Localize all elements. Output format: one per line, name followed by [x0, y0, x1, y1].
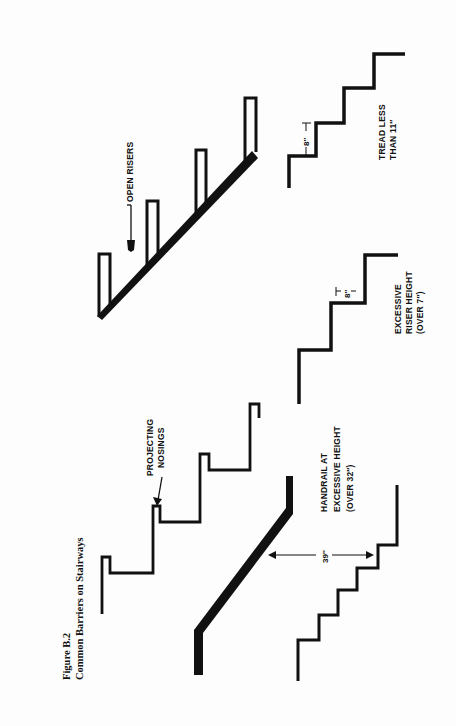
tread-dimension: 8″	[302, 138, 311, 146]
handrail-label-line3: (OVER 32″)	[345, 464, 355, 512]
figure-caption: Figure B.2 Common Barriers on Stairways	[61, 537, 85, 680]
nosings-label-line1: PROJECTING	[145, 419, 155, 476]
tread-label-line2: THAN 11″	[388, 119, 398, 160]
arrow-shaft	[158, 477, 162, 500]
tall-riser-stairs	[299, 255, 398, 404]
handrail-dimension: 39″	[321, 550, 330, 563]
figure-number: Figure B.2	[61, 633, 72, 680]
handrail-stairs	[298, 485, 397, 681]
riser-label-line1: EXCESSIVE	[393, 284, 403, 334]
arrow-left-icon	[268, 551, 276, 559]
stairway-barriers-figure: OPEN RISERS 8″ TREAD LESS THAN 11″ 8″ EX…	[0, 0, 456, 726]
riser-label-line2: RISER HEIGHT	[404, 271, 414, 334]
document-page: OPEN RISERS 8″ TREAD LESS THAN 11″ 8″ EX…	[0, 0, 456, 726]
open-risers-label: OPEN RISERS	[125, 142, 135, 202]
tread-less-diagram: 8″ TREAD LESS THAN 11″	[289, 54, 405, 188]
handrail-bar	[194, 476, 293, 675]
handrail-height-diagram: 39″ HANDRAIL AT EXCESSIVE HEIGHT (OVER 3…	[194, 426, 397, 681]
arrow-down-icon	[127, 240, 135, 252]
handrail-label-line1: HANDRAIL AT	[319, 452, 329, 512]
nosings-label-line2: NOSINGS	[156, 427, 166, 468]
open-risers-diagram: OPEN RISERS	[97, 98, 258, 320]
riser-label-line3: (OVER 7″)	[415, 291, 425, 334]
excessive-riser-diagram: 8″ EXCESSIVE RISER HEIGHT (OVER 7″)	[299, 255, 425, 404]
stringer-line	[97, 151, 258, 320]
handrail-label-line2: EXCESSIVE HEIGHT	[332, 426, 342, 512]
figure-title: Common Barriers on Stairways	[74, 537, 85, 680]
tread-label-line1: TREAD LESS	[377, 104, 387, 160]
riser-dimension: 8″	[343, 290, 352, 298]
